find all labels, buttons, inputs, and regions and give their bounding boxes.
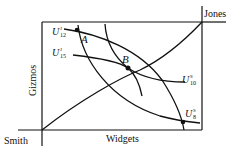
- svg-text:U: U: [52, 47, 60, 58]
- smith-origin-label: Smith: [4, 135, 28, 146]
- smith-indifference-curve-10: [105, 24, 185, 82]
- svg-text:U: U: [182, 74, 190, 85]
- label-uj12: U J 12: [52, 26, 66, 38]
- svg-text:S: S: [193, 108, 196, 113]
- point-b-marker: [126, 66, 131, 71]
- svg-text:J: J: [60, 47, 62, 52]
- point-a-label: A: [80, 33, 88, 45]
- svg-text:U: U: [52, 26, 60, 37]
- svg-text:12: 12: [60, 32, 66, 38]
- svg-text:10: 10: [190, 80, 196, 86]
- svg-text:8: 8: [193, 114, 196, 120]
- jones-indifference-curve-15: [73, 55, 142, 96]
- jones-origin-label: Jones: [204, 8, 226, 19]
- point-a-smith-marker: [181, 120, 186, 125]
- edgeworth-box-diagram: A B U J 12 U J 15 U S 10 U S 8 Smith Jon…: [0, 0, 240, 156]
- svg-text:U: U: [185, 108, 193, 119]
- label-us8: U S 8: [185, 108, 196, 120]
- svg-text:15: 15: [60, 53, 66, 59]
- label-uj15: U J 15: [52, 47, 66, 59]
- label-us10: U S 10: [182, 74, 196, 86]
- svg-text:S: S: [190, 74, 193, 79]
- point-b-label: B: [122, 53, 129, 65]
- point-a-marker: [75, 28, 80, 33]
- svg-text:J: J: [60, 26, 62, 31]
- widgets-axis-label: Widgets: [106, 133, 139, 144]
- gizmos-axis-label: Gizmos: [27, 65, 38, 96]
- contract-curve: [42, 22, 202, 130]
